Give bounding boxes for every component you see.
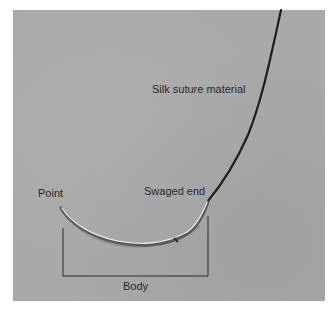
needle-illustration	[0, 0, 336, 314]
body-label: Body	[123, 281, 148, 292]
curved-needle	[61, 202, 208, 245]
needle-highlight	[62, 202, 207, 243]
silk-suture-line	[208, 10, 281, 201]
caption-area	[13, 303, 325, 313]
suture-material-label: Silk suture material	[152, 84, 246, 95]
needle-figure: Silk suture material Swaged end Point Bo…	[0, 0, 336, 314]
swaged-end-label: Swaged end	[144, 186, 205, 197]
point-label: Point	[38, 188, 63, 199]
